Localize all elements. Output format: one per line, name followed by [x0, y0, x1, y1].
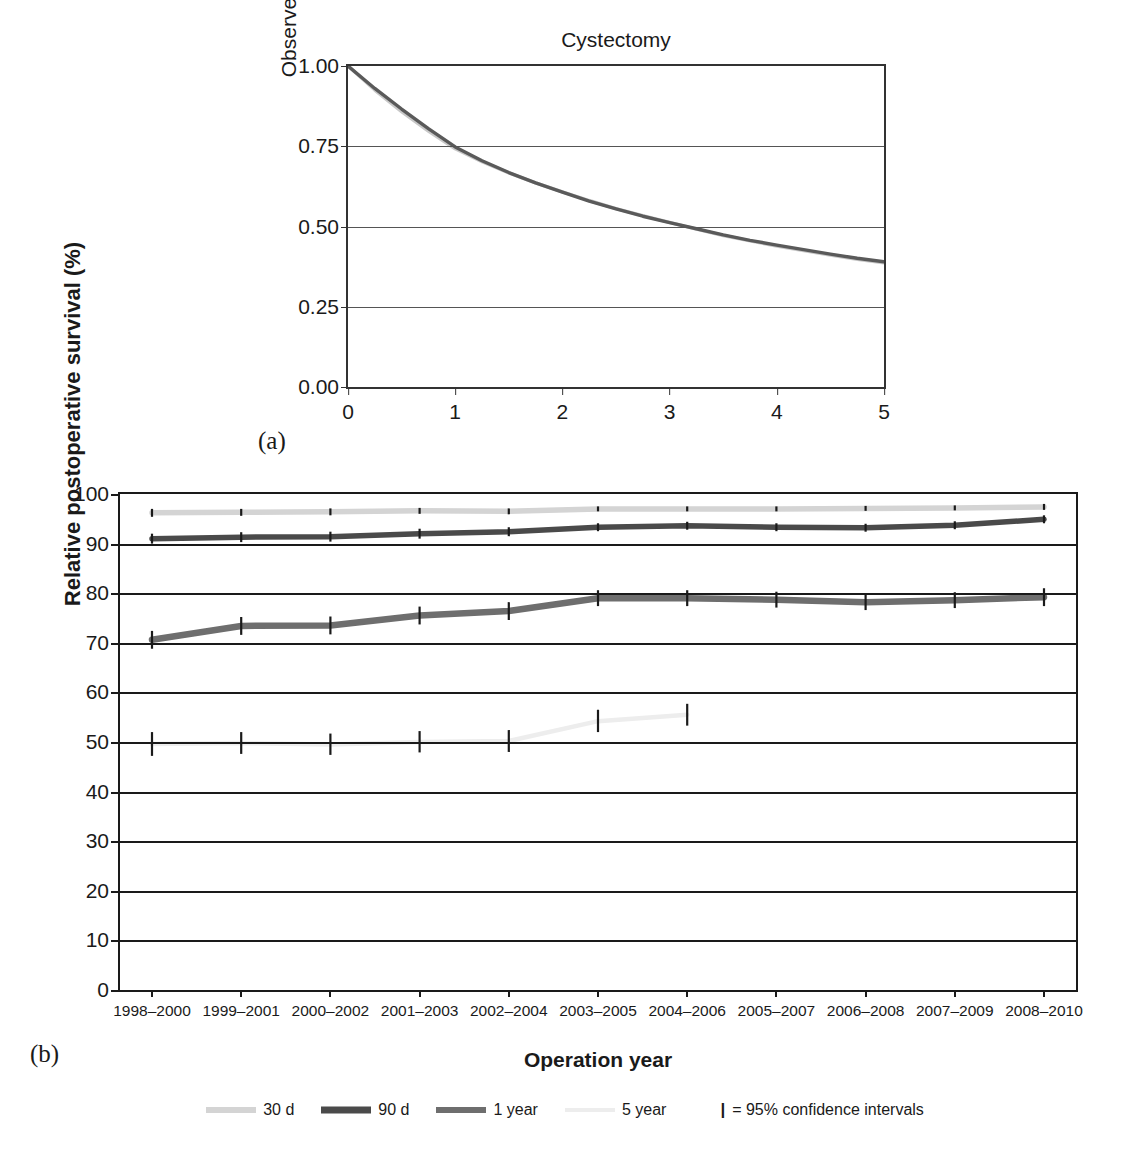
legend-item-30-d: 30 d	[205, 1101, 294, 1119]
panel-b-y-tick-label: 100	[74, 482, 120, 506]
panel-b-x-tick-label: 2000–2002	[292, 1002, 370, 1020]
panel-b-x-tick-mark	[865, 990, 867, 997]
panel-b-y-tick-label: 90	[86, 532, 120, 556]
chart-legend: 30 d90 d1 year5 year|= 95% confidence in…	[0, 1100, 1129, 1120]
legend-swatch-line	[435, 1104, 487, 1116]
panel-b-x-tick-mark	[597, 990, 599, 997]
panel-b-y-tick-label: 60	[86, 680, 120, 704]
panel-a-figure-label: (a)	[258, 427, 286, 455]
panel-b-gridline	[120, 940, 1076, 942]
panel-b-gridline	[120, 643, 1076, 645]
panel-b-y-tick-label: 20	[86, 879, 120, 903]
panel-b-plot-area: Relative postoperative survival (%) 0102…	[118, 492, 1078, 992]
panel-b-gridline	[120, 891, 1076, 893]
panel-a-series-line	[348, 66, 884, 262]
panel-b-gridline	[120, 792, 1076, 794]
panel-a-observed-survival: Cystectomy Observed survival (proportion…	[0, 0, 1129, 470]
panel-a-series-line	[348, 66, 884, 263]
legend-swatch-line	[564, 1104, 616, 1116]
panel-b-relative-survival: Relative postoperative survival (%) 0102…	[0, 470, 1129, 1158]
panel-a-x-tick-label: 2	[557, 387, 569, 424]
panel-b-y-tick-label: 0	[97, 978, 120, 1002]
panel-b-gridline	[120, 742, 1076, 744]
panel-b-y-tick-label: 30	[86, 829, 120, 853]
panel-b-x-tick-label: 2007–2009	[916, 1002, 994, 1020]
panel-b-x-axis-label: Operation year	[118, 1048, 1078, 1072]
panel-b-x-tick-label: 2001–2003	[381, 1002, 459, 1020]
panel-b-x-tick-mark	[775, 990, 777, 997]
legend-item-label: 90 d	[378, 1101, 409, 1119]
panel-b-x-tick-mark	[419, 990, 421, 997]
legend-item-label: 30 d	[263, 1101, 294, 1119]
panel-b-y-tick-label: 50	[86, 730, 120, 754]
panel-b-x-tick-mark	[240, 990, 242, 997]
panel-b-gridline	[120, 692, 1076, 694]
panel-b-x-tick-label: 2006–2008	[827, 1002, 905, 1020]
panel-a-title: Cystectomy	[340, 28, 892, 52]
panel-b-x-tick-label: 1999–2001	[202, 1002, 280, 1020]
panel-b-x-tick-mark	[151, 990, 153, 997]
panel-b-x-tick-mark	[329, 990, 331, 997]
panel-a-y-tick-label: 0.50	[298, 215, 348, 239]
legend-ci-bar-icon: |	[720, 1100, 725, 1120]
panel-b-y-tick-label: 40	[86, 780, 120, 804]
panel-b-y-tick-label: 70	[86, 631, 120, 655]
panel-a-gridline	[348, 146, 884, 147]
legend-ci-label: = 95% confidence intervals	[732, 1101, 924, 1119]
panel-b-x-tick-label: 2003–2005	[559, 1002, 637, 1020]
panel-b-x-tick-mark	[508, 990, 510, 997]
legend-item-1-year: 1 year	[435, 1101, 537, 1119]
legend-item-label: 1 year	[493, 1101, 537, 1119]
panel-b-gridline	[120, 544, 1076, 546]
panel-b-x-tick-mark	[686, 990, 688, 997]
legend-item-90-d: 90 d	[320, 1101, 409, 1119]
panel-a-plot-area: Observed survival (proportion) Years 0.0…	[346, 64, 886, 389]
panel-b-y-tick-label: 10	[86, 928, 120, 952]
panel-b-figure-label: (b)	[30, 1040, 59, 1068]
panel-b-x-tick-label: 1998–2000	[113, 1002, 191, 1020]
panel-a-y-tick-label: 1.00	[298, 54, 348, 78]
panel-b-y-axis-label: Relative postoperative survival (%)	[60, 214, 86, 634]
panel-a-y-tick-label: 0.25	[298, 295, 348, 319]
panel-b-x-tick-label: 2005–2007	[738, 1002, 816, 1020]
panel-a-x-tick-label: 0	[342, 387, 354, 424]
legend-swatch-line	[205, 1104, 257, 1116]
panel-a-gridline	[348, 307, 884, 308]
legend-confidence-interval-note: |= 95% confidence intervals	[720, 1100, 923, 1120]
panel-b-x-tick-mark	[954, 990, 956, 997]
panel-a-x-tick-label: 1	[449, 387, 461, 424]
panel-b-x-tick-label: 2004–2006	[648, 1002, 726, 1020]
panel-b-gridline	[120, 593, 1076, 595]
panel-b-x-tick-label: 2008–2010	[1005, 1002, 1083, 1020]
panel-a-x-tick-label: 4	[771, 387, 783, 424]
panel-a-x-tick-label: 5	[878, 387, 890, 424]
legend-item-label: 5 year	[622, 1101, 666, 1119]
panel-b-x-tick-label: 2002–2004	[470, 1002, 548, 1020]
legend-item-5-year: 5 year	[564, 1101, 666, 1119]
panel-b-y-tick-label: 80	[86, 581, 120, 605]
panel-b-gridline	[120, 841, 1076, 843]
panel-a-x-tick-label: 3	[664, 387, 676, 424]
panel-a-y-tick-label: 0.00	[298, 375, 348, 399]
panel-a-y-tick-label: 0.75	[298, 134, 348, 158]
panel-a-gridline	[348, 227, 884, 228]
panel-b-x-tick-mark	[1043, 990, 1045, 997]
legend-swatch-line	[320, 1104, 372, 1116]
